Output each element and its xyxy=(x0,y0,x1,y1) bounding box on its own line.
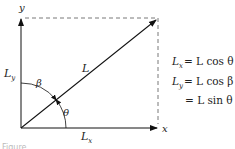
x-axis-label: x xyxy=(162,123,168,134)
figure-caption: Figure xyxy=(2,143,27,149)
y-axis-label: y xyxy=(18,2,25,13)
beta-label: β xyxy=(35,77,42,88)
equation-lx: Lx= L cos θ xyxy=(171,55,234,70)
component-x-label: Lx xyxy=(80,130,92,145)
vector-components-diagram: y x L θ β Ly Lx Lx= L cos θ Ly= L cos β … xyxy=(0,0,235,149)
vector-label: L xyxy=(81,62,89,75)
theta-label: θ xyxy=(63,107,69,118)
equation-ly-sin: = L sin θ xyxy=(185,94,233,106)
component-y-label: Ly xyxy=(3,67,16,82)
equation-ly: Ly= L cos β xyxy=(171,75,233,90)
